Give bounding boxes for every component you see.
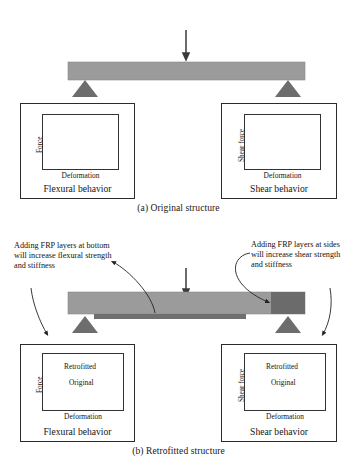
axis-label-x-b-left: Deformation	[42, 412, 124, 421]
curve-label-original-b-left: Original	[69, 378, 94, 387]
panel-shear-original: Shear force Deformation Shear behavior	[221, 103, 337, 199]
axis-label-x-a-right: Deformation	[244, 171, 321, 180]
support-triangle-right-retrofitted	[275, 316, 301, 333]
callout-right-to-panel	[323, 288, 331, 334]
axis-label-x-b-right: Deformation	[244, 412, 326, 421]
original-beam	[68, 62, 305, 80]
annotation-flexural-frp: Adding FRP layers at bottom will increas…	[14, 241, 118, 272]
axis-label-y-b-left: Force	[36, 377, 44, 393]
panel-shear-retrofitted: Shear force Deformation Retrofitted Orig…	[221, 344, 337, 442]
annotation-shear-frp: Adding FRP layers at sides will increase…	[251, 240, 351, 271]
callout-left-to-panel	[31, 288, 47, 334]
panel-title-flexural-a: Flexural behavior	[21, 183, 134, 194]
retrofitted-beam	[68, 292, 305, 314]
curve-label-retrofitted-b-left: Retrofitted	[64, 362, 96, 371]
original-structure-group	[68, 30, 305, 97]
caption-original-structure: (a) Original structure	[0, 203, 357, 213]
figure-root: Force Deformation Flexural behavior Shea…	[0, 0, 357, 470]
panel-title-shear-b: Shear behavior	[222, 426, 336, 437]
panel-title-shear-a: Shear behavior	[222, 183, 336, 194]
axis-label-x-a-left: Deformation	[42, 171, 119, 180]
retrofitted-structure-group	[68, 268, 305, 333]
panel-flexural-retrofitted: Force Deformation Retrofitted Original F…	[20, 344, 135, 442]
caption-retrofitted-structure: (b) Retrofitted structure	[0, 446, 357, 456]
curve-label-original-b-right: Original	[271, 378, 296, 387]
curve-label-retrofitted-b-right: Retrofitted	[266, 362, 298, 371]
frp-side-layer	[271, 292, 305, 314]
axis-label-y-a-left: Force	[36, 137, 44, 153]
support-triangle-right	[275, 80, 301, 97]
panel-title-flexural-b: Flexural behavior	[21, 426, 134, 437]
panel-flexural-original: Force Deformation Flexural behavior	[20, 103, 135, 199]
plot-frame-a-left	[42, 114, 119, 170]
axis-label-y-a-right: Shear force	[238, 129, 246, 162]
support-triangle-left	[72, 80, 98, 97]
frp-bottom-layer	[94, 314, 246, 319]
axis-label-y-b-right: Shear force	[238, 369, 246, 402]
plot-frame-a-right	[244, 114, 321, 170]
